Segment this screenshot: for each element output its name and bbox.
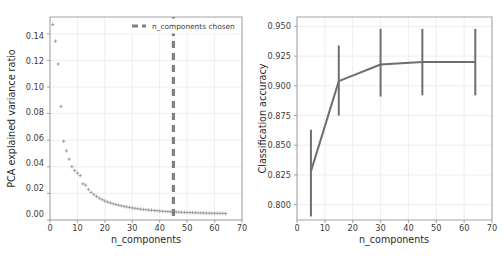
pca-variance-svg: n_components chosen	[0, 0, 252, 262]
figure-canvas: n_components chosen	[0, 0, 503, 262]
x-tick-label: 50	[431, 223, 441, 233]
x-axis-title: n_components	[111, 234, 181, 246]
y-tick-label: 0.825	[268, 170, 291, 180]
y-tick-label: 0.04	[26, 158, 44, 168]
x-tick-label: 70	[487, 223, 497, 233]
x-axis-title: n_components	[359, 234, 429, 246]
x-axis-tick-labels: 010203040506070	[294, 223, 497, 233]
plot-area-background	[50, 17, 242, 220]
y-tick-label: 0.950	[268, 21, 291, 31]
x-tick-label: 10	[320, 223, 330, 233]
pca-explained-variance-panel: n_components chosen	[0, 0, 252, 262]
y-tick-label: 0.02	[26, 183, 44, 193]
x-tick-label: 40	[403, 223, 413, 233]
x-tick-label: 50	[182, 223, 192, 233]
x-tick-label: 0	[294, 223, 299, 233]
x-tick-label: 20	[348, 223, 358, 233]
y-tick-label: 0.900	[268, 81, 291, 91]
y-tickmarks	[294, 26, 297, 204]
y-tick-label: 0.10	[26, 82, 44, 92]
x-tick-label: 60	[459, 223, 469, 233]
y-tick-label: 0.875	[268, 111, 291, 121]
y-axis-title: PCA explained variance ratio	[6, 49, 17, 188]
y-axis-tick-labels: 0.8000.8250.8500.8750.9000.9250.950	[268, 21, 291, 209]
x-tick-label: 10	[72, 223, 82, 233]
x-tick-label: 30	[127, 223, 137, 233]
x-tick-label: 20	[100, 223, 110, 233]
legend: n_components chosen	[126, 19, 236, 33]
y-axis-tick-labels: 0.000.020.040.060.080.100.120.14	[26, 31, 44, 219]
accuracy-svg: 010203040506070 0.8000.8250.8500.8750.90…	[252, 0, 503, 262]
x-axis-tick-labels: 010203040506070	[47, 223, 247, 233]
y-tick-label: 0.800	[268, 200, 291, 210]
y-tick-label: 0.850	[268, 140, 291, 150]
y-axis-title: Classification accuracy	[257, 63, 268, 173]
y-tick-label: 0.925	[268, 51, 291, 61]
y-tick-label: 0.06	[26, 133, 44, 143]
y-tick-label: 0.08	[26, 107, 44, 117]
x-tick-label: 30	[375, 223, 385, 233]
y-tick-label: 0.14	[26, 31, 44, 41]
classification-accuracy-panel: 010203040506070 0.8000.8250.8500.8750.90…	[252, 0, 503, 262]
x-tick-label: 40	[155, 223, 165, 233]
y-tick-label: 0.12	[26, 56, 44, 66]
x-tick-label: 0	[47, 223, 52, 233]
legend-label-n-components-chosen: n_components chosen	[152, 22, 235, 31]
x-tick-label: 60	[209, 223, 219, 233]
x-tick-label: 70	[237, 223, 247, 233]
y-tick-label: 0.00	[26, 209, 44, 219]
